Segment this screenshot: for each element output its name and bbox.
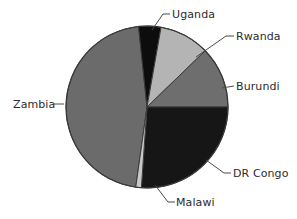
slice-zambia[interactable] [66,26,147,187]
pie-label-uganda: Uganda [172,8,215,21]
pie-label-malawi: Malawi [176,196,215,209]
pie-label-burundi: Burundi [236,80,280,93]
pie-label-zambia: Zambia [13,98,55,111]
leader-line-dr-congo [206,160,231,173]
pie-label-rwanda: Rwanda [236,30,281,43]
pie-chart: Uganda Rwanda Burundi DR Congo Malawi Za… [0,0,297,219]
pie-label-dr-congo: DR Congo [233,167,289,180]
slice-dr-congo[interactable] [141,107,228,188]
